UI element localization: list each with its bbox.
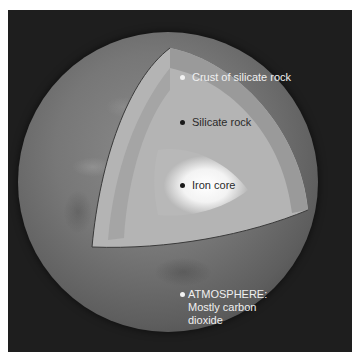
core-dot	[180, 183, 185, 188]
label-iron-core: Iron core	[192, 179, 235, 192]
label-silicate-rock: Silicate rock	[192, 116, 251, 129]
label-atmosphere: ATMOSPHERE:	[188, 288, 267, 301]
cutaway-wedge	[8, 10, 352, 352]
label-crust: Crust of silicate rock	[192, 71, 291, 84]
diagram-frame: Crust of silicate rock Silicate rock Iro…	[8, 10, 352, 352]
atmosphere-dot	[180, 292, 185, 297]
silicate-dot	[180, 120, 185, 125]
label-atmosphere-line3: dioxide	[188, 314, 223, 327]
label-atmosphere-line2: Mostly carbon	[188, 301, 256, 314]
crust-dot	[180, 75, 185, 80]
